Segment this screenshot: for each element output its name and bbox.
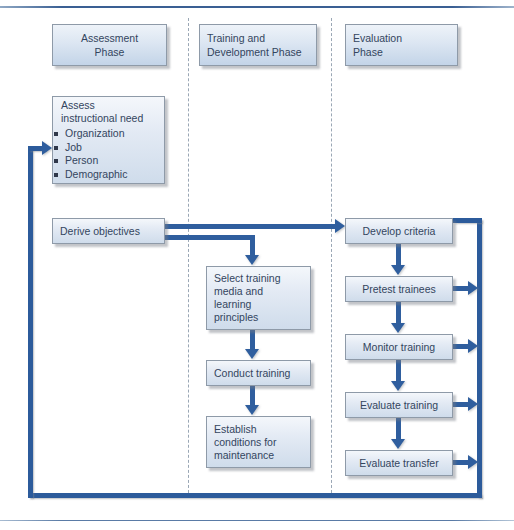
conduct-training-label: Conduct training [207,367,310,380]
phase-header-training: Training and Development Phase [199,24,317,66]
phase-header-training-label: Training and Development Phase [200,31,316,59]
develop-criteria-box: Develop criteria [345,218,453,244]
conduct-training-box: Conduct training [206,360,311,386]
connector-conduct-training-to-establish-conditions [250,386,255,405]
evaluate-training-box: Evaluate training [345,392,453,418]
pretest-trainees-box: Pretest trainees [345,276,453,302]
phase-divider-1 [188,18,189,498]
connector-derive-to-training-branch [165,235,255,240]
feedback-loop-left-spine [28,146,33,498]
assess-bullet-job: Job [53,141,164,155]
assess-bullet-organization: Organization [53,127,164,141]
arrowhead-monitor-training-in [391,323,405,333]
evaluate-transfer-label: Evaluate transfer [346,457,452,470]
select-training-media-box: Select training media and learning princ… [206,266,311,330]
establish-conditions-label: Establish conditions for maintenance [207,423,310,462]
arrowhead-evaluate-training-in [391,381,405,391]
monitor-training-box: Monitor training [345,334,453,360]
phase-divider-2 [331,18,332,498]
phase-header-assessment: Assessment Phase [52,24,167,66]
bottom-rule [0,520,514,521]
arrowhead-evaluate-training-feedback-out [468,397,478,411]
arrowhead-evaluate-transfer-in [391,439,405,449]
assess-instructional-need-box: Assess instructional need Organization J… [52,96,165,184]
assess-box-heading: Assess instructional need [53,99,164,125]
top-rule [0,6,514,8]
phase-header-assessment-label: Assessment Phase [53,31,166,59]
connector-monitor-to-evaluate-training [396,360,401,381]
connector-derive-to-develop-criteria [165,224,341,229]
arrowhead-monitor-feedback-out [468,339,478,353]
derive-objectives-label: Derive objectives [53,225,164,238]
arrowhead-develop-criteria-in [335,219,345,233]
select-training-media-label: Select training media and learning princ… [207,272,310,324]
arrowhead-pretest-trainees-in [391,265,405,275]
phase-header-evaluation: Evaluation Phase [345,24,458,66]
evaluate-transfer-box: Evaluate transfer [345,450,453,476]
feedback-loop-bottom-run [28,493,482,498]
assess-bullet-person: Person [53,154,164,168]
feedback-loop-top-stub [453,218,482,223]
pretest-trainees-label: Pretest trainees [346,283,452,296]
assess-bullet-demographic: Demographic [53,168,164,182]
connector-develop-criteria-to-pretest [396,244,401,265]
arrowhead-evaluate-transfer-feedback-out [468,455,478,469]
arrowhead-pretest-feedback-out [468,281,478,295]
diagram-canvas: Assessment Phase Training and Developmen… [0,0,514,530]
arrowhead-establish-conditions-in [245,405,259,415]
phase-header-evaluation-label: Evaluation Phase [346,31,457,59]
establish-conditions-box: Establish conditions for maintenance [206,416,311,468]
monitor-training-label: Monitor training [346,341,452,354]
connector-evaluate-training-to-evaluate-transfer [396,418,401,439]
develop-criteria-label: Develop criteria [346,225,452,238]
arrowhead-select-media-in [245,255,259,265]
arrowhead-conduct-training-in [245,349,259,359]
arrowhead-assess-box-feedback-in [42,141,52,155]
derive-objectives-box: Derive objectives [52,218,165,244]
connector-pretest-to-monitor [396,302,401,323]
assess-box-bullet-list: Organization Job Person Demographic [53,127,164,181]
connector-select-media-to-conduct-training [250,330,255,349]
evaluate-training-label: Evaluate training [346,399,452,412]
